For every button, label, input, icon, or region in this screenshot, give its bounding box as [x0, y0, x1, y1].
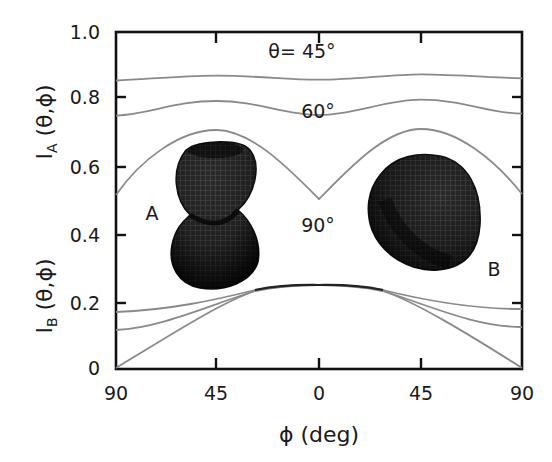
curve-ia-theta45 [116, 74, 522, 80]
y-title-subscript: B [44, 318, 60, 328]
x-tick-label: 90 [104, 382, 128, 404]
curve-overlap [255, 285, 383, 290]
curve-ib-theta60 [116, 285, 522, 330]
y-tick-label: 0.8 [70, 86, 100, 108]
curve-ib-theta45 [116, 285, 522, 312]
x-tick-label: 45 [409, 382, 433, 404]
inset-a-label: A [146, 202, 159, 224]
x-tick-labels: 90 45 0 45 90 [104, 382, 534, 404]
x-tick-label: 90 [510, 382, 534, 404]
x-tick-label: 45 [204, 382, 228, 404]
y-axis-title-top: IA (θ,ϕ) [32, 84, 60, 159]
y-title-args: (θ,ϕ) [32, 258, 57, 317]
y-tick-label: 1.0 [70, 21, 100, 43]
inset-a-3d-pattern [171, 142, 259, 289]
annotation-theta-90: 90° [301, 214, 335, 236]
svg-text:IB (θ,ϕ): IB (θ,ϕ) [32, 258, 60, 333]
y-tick-label: 0.4 [70, 224, 100, 246]
svg-text:IA (θ,ϕ): IA (θ,ϕ) [32, 84, 60, 159]
curve-ib-theta90 [116, 285, 522, 368]
y-tick-label: 0 [88, 357, 100, 379]
y-tick-label: 0.2 [70, 292, 100, 314]
y-tick-labels: 0 0.2 0.4 0.6 0.8 1.0 [70, 21, 100, 379]
y-title-subscript: A [44, 143, 60, 153]
y-tick-label: 0.6 [70, 156, 100, 178]
inset-b-3d-pattern [368, 154, 480, 270]
y-title-args: (θ,ϕ) [32, 84, 57, 143]
annotation-theta-45: θ= 45° [268, 40, 335, 62]
chart: 90 45 0 45 90 0 0.2 0.4 0.6 0.8 1.0 ϕ (d… [0, 0, 552, 462]
inset-b-label: B [487, 258, 500, 280]
y-axis-title-bottom: IB (θ,ϕ) [32, 258, 60, 333]
x-tick-label: 0 [313, 382, 325, 404]
annotation-theta-60: 60° [301, 100, 335, 122]
x-axis-title: ϕ (deg) [279, 422, 359, 447]
